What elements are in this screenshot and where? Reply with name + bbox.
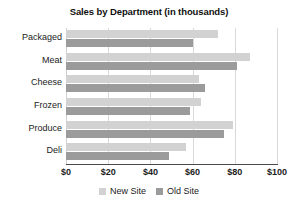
- legend-swatch-icon: [99, 188, 106, 195]
- x-axis-line: [66, 164, 278, 165]
- gridline-100: [277, 28, 278, 164]
- category-label-meat: Meat: [0, 55, 62, 66]
- bar: [66, 98, 201, 106]
- bar-group: [66, 141, 277, 164]
- bar-group: [66, 119, 277, 142]
- bar: [66, 130, 224, 138]
- legend-label: New Site: [110, 186, 146, 197]
- chart-legend: New SiteOld Site: [0, 186, 298, 197]
- bar-group: [66, 73, 277, 96]
- category-label-produce: Produce: [0, 123, 62, 134]
- bar: [66, 152, 169, 160]
- legend-label: Old Site: [167, 186, 199, 197]
- bar: [66, 62, 237, 70]
- x-tick-label: $40: [130, 167, 170, 178]
- legend-item-new-site[interactable]: New Site: [99, 186, 146, 197]
- bar: [66, 30, 218, 38]
- bar: [66, 107, 190, 115]
- bar-group: [66, 51, 277, 74]
- bar: [66, 75, 199, 83]
- x-tick-label: $80: [215, 167, 255, 178]
- category-label-deli: Deli: [0, 145, 62, 156]
- x-tick-label: $0: [46, 167, 86, 178]
- x-tick-label: $100: [257, 167, 297, 178]
- bar-group: [66, 28, 277, 51]
- chart-title: Sales by Department (in thousands): [0, 6, 298, 18]
- plot-area: [66, 28, 277, 164]
- category-label-frozen: Frozen: [0, 100, 62, 111]
- x-tick-label: $60: [173, 167, 213, 178]
- category-label-packaged: Packaged: [0, 32, 62, 43]
- bar: [66, 143, 186, 151]
- bar: [66, 84, 205, 92]
- legend-item-old-site[interactable]: Old Site: [156, 186, 199, 197]
- x-tick-label: $20: [88, 167, 128, 178]
- category-label-cheese: Cheese: [0, 77, 62, 88]
- bar: [66, 39, 193, 47]
- bar-group: [66, 96, 277, 119]
- bar: [66, 53, 250, 61]
- bar: [66, 121, 233, 129]
- legend-swatch-icon: [156, 188, 163, 195]
- bar-chart: Sales by Department (in thousands) Packa…: [0, 0, 298, 207]
